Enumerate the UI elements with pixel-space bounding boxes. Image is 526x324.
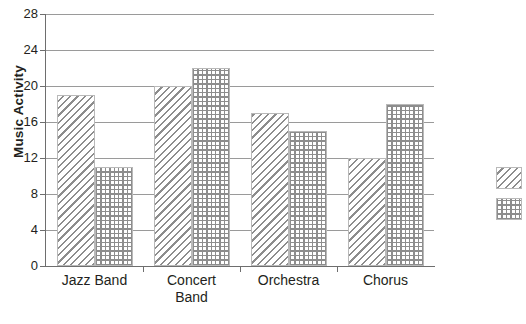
plot-area [46,14,434,266]
y-tick-label: 16 [2,115,38,128]
bar-orchestra-series-0 [251,113,289,266]
y-tick-mark [40,122,46,123]
y-tick-label: 12 [2,151,38,164]
y-tick-mark [40,266,46,267]
y-tick-mark [40,50,46,51]
x-category-label-orchestra: Orchestra [240,272,337,289]
clipped-caption [0,317,512,324]
legend-item [496,197,526,221]
gridline-24 [46,50,434,51]
y-tick-label: 20 [2,79,38,92]
bar-concert-band-series-0 [154,86,192,266]
x-axis-category-labels: Jazz Band Concert Band Orchestra Chorus [46,272,434,318]
y-axis-tick-labels: 28 24 20 16 12 8 4 0 [0,14,38,266]
x-category-label-chorus: Chorus [337,272,434,289]
y-tick-mark [40,194,46,195]
y-tick-label: 0 [2,259,38,272]
bar-chorus-series-0 [348,158,386,266]
bar-orchestra-series-1 [289,131,327,266]
y-tick-label: 28 [2,7,38,20]
gridline-16 [46,122,434,123]
x-category-label-line: Concert [143,272,240,289]
bar-jazz-band-series-1 [95,167,133,266]
x-category-label-concert-band: Concert Band [143,272,240,306]
x-category-label-line: Jazz Band [46,272,143,289]
y-tick-mark [40,230,46,231]
x-category-label-jazz-band: Jazz Band [46,272,143,289]
y-tick-mark [40,14,46,15]
legend-item [496,166,526,190]
legend-swatch-series-1-icon [496,198,522,220]
bar-chorus-series-1 [386,104,424,266]
x-category-label-line: Orchestra [240,272,337,289]
x-category-label-line: Band [143,289,240,306]
bar-jazz-band-series-0 [57,95,95,266]
x-category-label-line: Chorus [337,272,434,289]
gridline-20 [46,86,434,87]
legend-swatch-series-0-icon [496,167,522,189]
y-tick-mark [40,158,46,159]
legend [496,166,526,228]
y-tick-label: 4 [2,223,38,236]
y-tick-mark [40,86,46,87]
gridline-28 [46,14,434,15]
bar-concert-band-series-1 [192,68,230,266]
y-tick-label: 24 [2,43,38,56]
y-tick-label: 8 [2,187,38,200]
